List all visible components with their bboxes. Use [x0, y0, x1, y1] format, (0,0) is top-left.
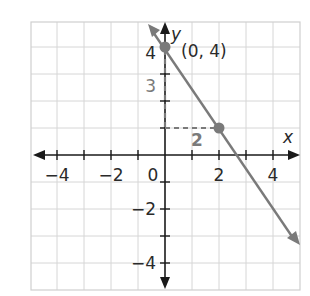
- y-tick-label: −2: [131, 199, 156, 219]
- point-label: (0, 4): [181, 41, 227, 61]
- x-axis-label: x: [282, 127, 294, 147]
- y-axis-down-arrow-icon: [160, 277, 170, 289]
- x-tick-label: 4: [268, 165, 279, 185]
- x-axis-left-arrow-icon: [33, 150, 45, 160]
- point-2-1: [214, 123, 225, 134]
- x-tick-label: −4: [44, 165, 69, 185]
- x-tick-label: 2: [214, 165, 225, 185]
- x-tick-label: −2: [98, 165, 123, 185]
- x-axis-right-arrow-icon: [288, 150, 300, 160]
- line-up-arrow-icon: [148, 24, 160, 37]
- coordinate-plane: −4 −2 0 2 4 −2 −4 4 3 y x 2 (0, 4): [0, 0, 310, 296]
- x-axis: [33, 150, 300, 160]
- y-tick-label: −4: [131, 253, 156, 273]
- origin-label: 0: [148, 165, 159, 185]
- point-0-4: [160, 42, 171, 53]
- y-tick-label: 4: [145, 43, 156, 63]
- graph-line: [153, 32, 293, 238]
- y-axis-up-arrow-icon: [160, 22, 170, 34]
- y-tick-label: 3: [145, 76, 156, 96]
- run-label: 2: [191, 130, 203, 150]
